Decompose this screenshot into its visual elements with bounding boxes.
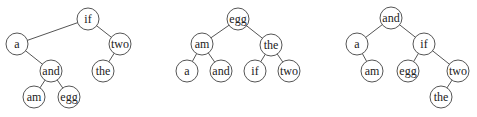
node-label: if bbox=[420, 37, 427, 51]
tree-node-and: and bbox=[210, 60, 232, 82]
node-label: the bbox=[434, 90, 449, 104]
node-label: and bbox=[42, 64, 59, 78]
node-label: the bbox=[96, 64, 111, 78]
tree-node-a: a bbox=[176, 60, 198, 82]
node-label: egg bbox=[60, 90, 77, 104]
tree-1: ifatwoandtheamegg bbox=[6, 8, 131, 108]
tree-node-and: and bbox=[380, 7, 402, 29]
node-label: if bbox=[84, 12, 91, 26]
node-label: two bbox=[111, 37, 129, 51]
tree-node-the: the bbox=[92, 60, 114, 82]
node-label: a bbox=[184, 64, 190, 78]
tree-node-if: if bbox=[413, 33, 435, 55]
tree-node-two: two bbox=[109, 33, 131, 55]
tree-3: andaifameggtwothe bbox=[346, 7, 469, 108]
node-label: am bbox=[195, 37, 210, 51]
tree-node-am: am bbox=[361, 60, 383, 82]
tree-node-egg: egg bbox=[227, 8, 249, 30]
tree-diagram: ifatwoandtheameggeggamtheaandiftwoandaif… bbox=[0, 0, 477, 117]
node-label: egg bbox=[399, 64, 416, 78]
tree-node-if: if bbox=[244, 60, 266, 82]
tree-node-two: two bbox=[278, 60, 300, 82]
node-label: and bbox=[382, 11, 399, 25]
tree-node-the: the bbox=[260, 34, 282, 56]
node-label: if bbox=[251, 64, 258, 78]
tree-node-and: and bbox=[40, 60, 62, 82]
tree-node-egg: egg bbox=[58, 86, 80, 108]
tree-node-two: two bbox=[447, 60, 469, 82]
tree-node-if: if bbox=[77, 8, 99, 30]
node-label: am bbox=[27, 90, 42, 104]
node-label: two bbox=[449, 64, 467, 78]
tree-node-am: am bbox=[23, 86, 45, 108]
node-label: am bbox=[365, 64, 380, 78]
tree-node-am: am bbox=[191, 33, 213, 55]
tree-node-a: a bbox=[6, 33, 28, 55]
node-label: two bbox=[280, 64, 298, 78]
node-label: and bbox=[212, 64, 229, 78]
node-label: egg bbox=[229, 12, 246, 26]
tree-node-a: a bbox=[346, 33, 368, 55]
tree-node-the: the bbox=[430, 86, 452, 108]
node-label: a bbox=[14, 37, 20, 51]
node-label: a bbox=[354, 37, 360, 51]
tree-2: eggamtheaandiftwo bbox=[176, 8, 300, 82]
tree-node-egg: egg bbox=[397, 60, 419, 82]
node-label: the bbox=[264, 38, 279, 52]
